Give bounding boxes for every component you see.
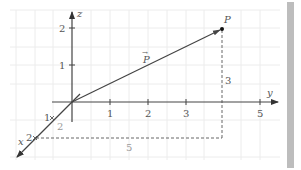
x-tick-1: 1: [44, 112, 50, 123]
vector-diagram: z 2 1 y 1 2 3 5 x 1 2 P P → 3 5 2: [0, 0, 301, 170]
z-tick-2: 2: [59, 23, 65, 34]
scrollbar[interactable]: [287, 2, 294, 168]
z-axis-label: z: [76, 8, 83, 19]
y-axis: [52, 99, 278, 105]
point-p-label: P: [223, 14, 231, 25]
x-axis: [17, 94, 80, 157]
x-axis-label: x: [18, 136, 24, 147]
vector-p-label: P →: [142, 49, 150, 65]
grid: [10, 10, 280, 160]
point-p-dot: [220, 27, 224, 31]
y-axis-label: y: [266, 87, 273, 98]
dashed-horizontal-label: 5: [126, 142, 132, 153]
y-tick-3: 3: [183, 108, 189, 119]
vector-arrow-notation: →: [142, 49, 148, 57]
dashed-vertical-label: 3: [225, 75, 231, 86]
x-tick-2: 2: [26, 132, 32, 143]
diagram-canvas: z 2 1 y 1 2 3 5 x 1 2 P P → 3 5 2: [0, 0, 301, 170]
z-axis: [69, 12, 75, 122]
x-offset-label: 2: [57, 121, 63, 132]
z-tick-1: 1: [59, 60, 65, 71]
y-tick-5: 5: [257, 108, 263, 119]
y-tick-2: 2: [145, 108, 151, 119]
y-tick-1: 1: [107, 108, 113, 119]
